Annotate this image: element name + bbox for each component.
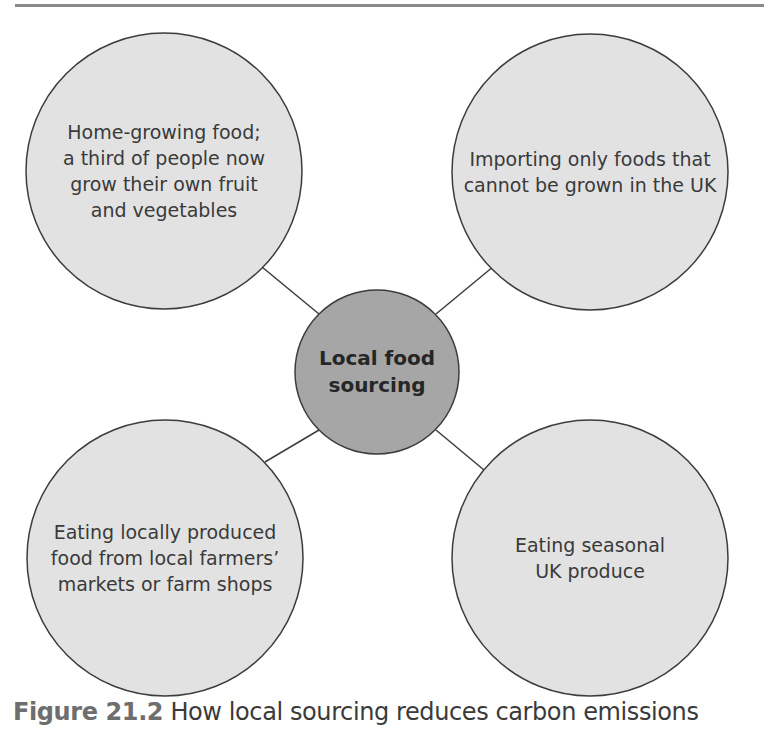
connector-top-right (436, 266, 494, 314)
node-top-left-label: Home-growing food; a third of people now… (40, 71, 288, 271)
connector-top-left (262, 267, 319, 314)
center-label: Local food sourcing (307, 322, 447, 422)
node-bottom-left-label: Eating locally produced food from local … (40, 458, 290, 658)
figure-caption: Figure 21.2 How local sourcing reduces c… (13, 698, 698, 726)
figure-number: Figure 21.2 (13, 698, 163, 726)
node-top-right-label: Importing only foods that cannot be grow… (462, 72, 718, 272)
node-bottom-right-label: Eating seasonal UK produce (466, 458, 714, 658)
figure-caption-text: How local sourcing reduces carbon emissi… (170, 698, 698, 726)
